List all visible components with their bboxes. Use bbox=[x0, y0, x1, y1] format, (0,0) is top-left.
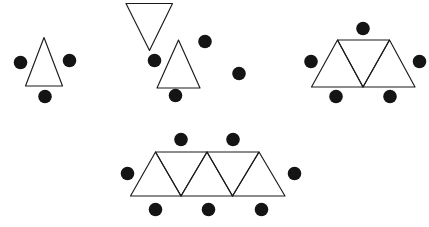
dot-left-1 bbox=[148, 54, 162, 68]
dot-upper-right-2 bbox=[198, 35, 212, 49]
dot-top-1 bbox=[356, 22, 370, 36]
dot-left-2 bbox=[304, 55, 318, 69]
dot-top-right-2 bbox=[226, 133, 240, 147]
dot-right-3 bbox=[232, 67, 246, 81]
dot-bottom-left-4 bbox=[329, 90, 343, 104]
dot-bottom-center-6 bbox=[202, 203, 216, 217]
dot-right-2 bbox=[63, 54, 77, 68]
dot-left-3 bbox=[121, 167, 135, 181]
dot-right-4 bbox=[288, 167, 302, 181]
dot-right-3 bbox=[413, 55, 427, 69]
dot-bottom-3 bbox=[38, 90, 52, 104]
dot-bottom-4 bbox=[169, 89, 183, 103]
dot-left-1 bbox=[14, 56, 28, 70]
dot-top-left-1 bbox=[174, 133, 188, 147]
dot-bottom-left-5 bbox=[149, 203, 163, 217]
dot-bottom-right-7 bbox=[255, 203, 269, 217]
triangle-dot-figure-diagram bbox=[0, 0, 429, 227]
dot-bottom-right-5 bbox=[383, 90, 397, 104]
